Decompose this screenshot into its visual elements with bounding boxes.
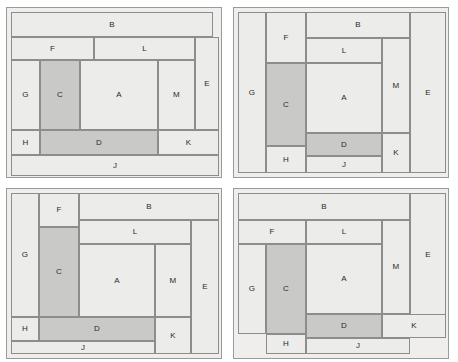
room-label: B [146, 203, 152, 211]
room-f: F [266, 12, 306, 63]
room-h: H [266, 334, 306, 354]
room-label: B [109, 21, 115, 29]
room-b: B [11, 12, 213, 37]
room-j: J [306, 338, 410, 354]
floor-plan-panel-1: BFLEGCAMHDKJ [6, 7, 222, 178]
room-j: J [306, 156, 382, 173]
room-k: K [158, 130, 219, 155]
room-d: D [306, 314, 382, 338]
room-label: B [355, 21, 361, 29]
room-g: G [238, 12, 266, 173]
room-label: A [341, 275, 347, 283]
room-label: F [283, 34, 288, 42]
room-label: C [283, 285, 289, 293]
room-label: L [133, 228, 138, 236]
panel-inner: BFLEGCAMHDKJ [7, 8, 221, 177]
room-l: L [306, 38, 382, 63]
room-h: H [266, 146, 306, 173]
room-m: M [158, 60, 195, 130]
room-label: M [173, 91, 180, 99]
room-label: E [425, 251, 431, 259]
room-l: L [306, 220, 382, 244]
room-label: G [22, 251, 28, 259]
room-label: M [170, 277, 177, 285]
room-label: M [393, 263, 400, 271]
room-g: G [238, 244, 266, 334]
room-label: E [202, 283, 208, 291]
floor-plan-grid: BFLEGCAMHDKJGFBELMCADKHJGFBLECAMHDKJBEFL… [0, 0, 458, 362]
room-k: K [155, 317, 191, 354]
room-label: H [23, 139, 29, 147]
room-c: C [266, 63, 306, 146]
room-a: A [306, 244, 382, 314]
room-label: D [341, 141, 347, 149]
room-f: F [238, 220, 306, 244]
room-label: L [342, 47, 347, 55]
floor-plan-panel-2: GFBELMCADKHJ [233, 7, 449, 178]
room-label: H [283, 156, 289, 164]
room-label: L [342, 228, 347, 236]
panel-inner: GFBLECAMHDKJ [7, 189, 221, 358]
room-label: K [170, 332, 176, 340]
room-label: K [411, 322, 417, 330]
room-f: F [39, 193, 79, 227]
room-label: B [321, 203, 327, 211]
room-f: F [11, 37, 94, 60]
room-label: C [283, 101, 289, 109]
room-label: C [56, 268, 62, 276]
room-label: M [393, 82, 400, 90]
room-a: A [306, 63, 382, 133]
room-label: E [425, 89, 431, 97]
room-label: F [50, 45, 55, 53]
room-d: D [40, 130, 158, 155]
room-label: F [56, 206, 61, 214]
room-label: A [116, 91, 122, 99]
room-label: J [356, 342, 360, 350]
room-c: C [40, 60, 80, 130]
room-label: J [342, 161, 346, 169]
room-m: M [155, 244, 191, 317]
room-h: H [11, 130, 40, 155]
room-c: C [266, 244, 306, 334]
room-e: E [410, 12, 446, 173]
panel-inner: GFBELMCADKHJ [234, 8, 448, 177]
room-g: G [11, 193, 39, 317]
room-h: H [11, 317, 39, 341]
room-k: K [382, 314, 446, 338]
room-label: L [142, 45, 147, 53]
room-label: A [114, 277, 120, 285]
room-m: M [382, 220, 410, 314]
room-b: B [306, 12, 410, 38]
room-label: G [249, 285, 255, 293]
room-a: A [80, 60, 158, 130]
room-label: C [57, 91, 63, 99]
room-b: B [79, 193, 219, 220]
room-j: J [11, 155, 219, 176]
room-label: J [81, 344, 85, 352]
room-label: H [283, 340, 289, 348]
panel-inner: BEFLMGCADKHJ [234, 189, 448, 358]
room-label: D [96, 139, 102, 147]
floor-plan-panel-3: GFBLECAMHDKJ [6, 188, 222, 359]
room-d: D [306, 133, 382, 156]
room-g: G [11, 60, 40, 130]
room-label: J [113, 162, 117, 170]
room-k: K [382, 133, 410, 173]
room-c: C [39, 227, 79, 317]
room-label: E [204, 80, 210, 88]
room-label: D [94, 325, 100, 333]
room-label: K [393, 149, 399, 157]
room-l: L [94, 37, 195, 60]
room-label: K [186, 139, 192, 147]
room-label: G [249, 89, 255, 97]
room-e: E [191, 220, 219, 354]
room-label: H [22, 325, 28, 333]
room-j: J [11, 341, 155, 354]
room-l: L [79, 220, 191, 244]
room-m: M [382, 38, 410, 133]
room-label: F [269, 228, 274, 236]
floor-plan-panel-4: BEFLMGCADKHJ [233, 188, 449, 359]
room-d: D [39, 317, 155, 341]
room-e: E [410, 193, 446, 317]
room-label: G [22, 91, 28, 99]
